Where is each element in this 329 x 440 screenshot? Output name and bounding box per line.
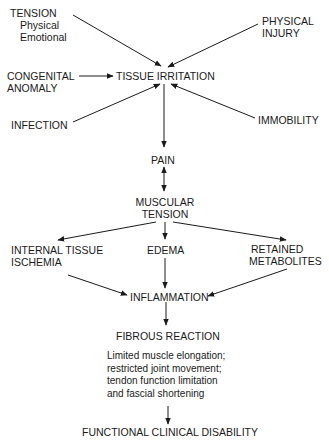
arrow-muscular-to-ischemia bbox=[58, 222, 156, 240]
node-retained-metabolites: RETAINED METABOLITES bbox=[249, 243, 322, 267]
node-congenital-anomaly: CONGENITAL ANOMALY bbox=[7, 70, 74, 94]
node-immobility: IMMOBILITY bbox=[258, 114, 319, 126]
consequences-line1: Limited muscle elongation; bbox=[107, 350, 225, 363]
arrow-retained-to-inflammation bbox=[208, 269, 287, 296]
arrow-injury-to-irritation bbox=[168, 24, 258, 67]
arrow-muscular-to-retained bbox=[173, 222, 286, 240]
muscular-line1: MUSCULAR bbox=[134, 196, 196, 208]
arrow-tension-to-irritation bbox=[73, 15, 161, 66]
retained-line2: METABOLITES bbox=[249, 255, 322, 267]
congenital-line2: ANOMALY bbox=[7, 82, 74, 94]
tension-label: TENSION bbox=[10, 7, 67, 19]
physical-injury-line2: INJURY bbox=[262, 27, 314, 39]
consequences-line3: tendon function limitation bbox=[107, 375, 225, 388]
muscular-line2: TENSION bbox=[134, 208, 196, 220]
consequences-line2: restricted joint movement; bbox=[107, 363, 225, 376]
node-tension: TENSION Physical Emotional bbox=[10, 7, 67, 43]
node-edema: EDEMA bbox=[147, 244, 184, 256]
ischemia-line2: ISCHEMIA bbox=[11, 256, 103, 268]
arrow-infection-to-irritation bbox=[73, 84, 160, 122]
node-consequences: Limited muscle elongation; restricted jo… bbox=[107, 350, 225, 400]
node-muscular-tension: MUSCULAR TENSION bbox=[134, 196, 196, 220]
physical-injury-line1: PHYSICAL bbox=[262, 15, 314, 27]
consequences-line4: and fascial shortening bbox=[107, 388, 225, 401]
node-inflammation: INFLAMMATION bbox=[130, 291, 209, 303]
arrow-ischemia-to-inflammation bbox=[68, 275, 127, 295]
node-fibrous-reaction: FIBROUS REACTION bbox=[116, 330, 220, 342]
node-internal-tissue-ischemia: INTERNAL TISSUE ISCHEMIA bbox=[11, 244, 103, 268]
retained-line1: RETAINED bbox=[249, 243, 322, 255]
node-functional-clinical-disability: FUNCTIONAL CLINICAL DISABILITY bbox=[82, 426, 258, 438]
congenital-line1: CONGENITAL bbox=[7, 70, 74, 82]
node-physical-injury: PHYSICAL INJURY bbox=[262, 15, 314, 39]
arrow-immobility-to-irritation bbox=[171, 84, 255, 118]
node-pain: PAIN bbox=[151, 154, 175, 166]
tension-emotional: Emotional bbox=[10, 31, 67, 43]
node-tissue-irritation: TISSUE IRRITATION bbox=[116, 70, 215, 82]
node-infection: INFECTION bbox=[11, 119, 68, 131]
tension-physical: Physical bbox=[10, 19, 67, 31]
ischemia-line1: INTERNAL TISSUE bbox=[11, 244, 103, 256]
